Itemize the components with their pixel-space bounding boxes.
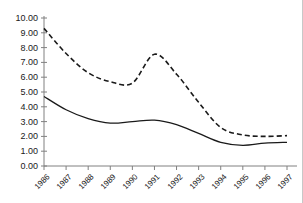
x-axis-tick-label: 1995 — [228, 173, 251, 196]
x-axis-tick-label: 1986 — [29, 173, 52, 196]
x-axis-tick-label: 1988 — [73, 173, 96, 196]
x-axis-tick-label: 1991 — [139, 173, 162, 196]
x-axis-tick-label: 1992 — [162, 173, 185, 196]
x-axis-tick-label: 1996 — [250, 173, 273, 196]
x-axis-tick-label: 1993 — [184, 173, 207, 196]
x-axis-tick-labels: 1986198719881989199019911992199319941995… — [0, 0, 303, 203]
x-axis-tick-label: 1989 — [95, 173, 118, 196]
x-axis-tick-label: 1997 — [272, 173, 295, 196]
x-axis-tick-label: 1987 — [51, 173, 74, 196]
x-axis-tick-label: 1994 — [206, 173, 229, 196]
x-axis-tick-label: 1990 — [117, 173, 140, 196]
chart-figure: 0.001.002.003.004.005.006.007.008.009.00… — [0, 0, 303, 203]
